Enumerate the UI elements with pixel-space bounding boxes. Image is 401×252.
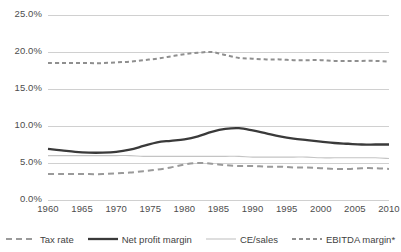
y-axis-tick-label: 25.0%: [0, 8, 42, 19]
legend-swatch-ce-sales: [206, 234, 236, 244]
legend-label-tax-rate: Tax rate: [40, 234, 74, 245]
chart-plot-area: [0, 0, 401, 252]
y-axis-tick-label: 10.0%: [0, 119, 42, 130]
legend-item-net-profit-margin[interactable]: Net profit margin: [88, 234, 192, 245]
series-line-net-profit-margin: [48, 128, 389, 153]
chart-container: 0.0%5.0%10.0%15.0%20.0%25.0% 19601965197…: [0, 0, 401, 252]
series-line-ebitda-margin: [48, 52, 389, 63]
legend-label-net-profit-margin: Net profit margin: [122, 234, 192, 245]
legend-item-ebitda-margin[interactable]: EBITDA margin*: [292, 234, 395, 245]
legend-item-tax-rate[interactable]: Tax rate: [6, 234, 74, 245]
gridlines: [48, 15, 389, 200]
legend-label-ebitda-margin: EBITDA margin*: [326, 234, 395, 245]
y-axis-tick-label: 15.0%: [0, 82, 42, 93]
x-axis-tick-label: 2010: [369, 203, 401, 214]
y-axis-tick-label: 5.0%: [0, 156, 42, 167]
series-line-ce-sales: [48, 156, 389, 159]
y-axis-tick-label: 20.0%: [0, 45, 42, 56]
legend-label-ce-sales: CE/sales: [240, 234, 278, 245]
legend-swatch-tax-rate: [6, 234, 36, 244]
data-series-layer: [48, 52, 389, 174]
legend-swatch-ebitda-margin: [292, 234, 322, 244]
series-line-tax-rate: [48, 163, 389, 174]
legend-item-ce-sales[interactable]: CE/sales: [206, 234, 278, 245]
chart-legend: Tax rateNet profit marginCE/salesEBITDA …: [0, 229, 401, 249]
legend-swatch-net-profit-margin: [88, 234, 118, 244]
